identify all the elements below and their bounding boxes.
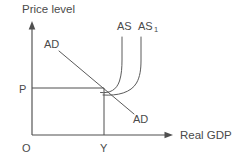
labels-group: Price level Real GDP O P Y AD AD AS AS 1 <box>19 3 232 154</box>
x-axis-arrow-icon <box>165 132 174 139</box>
y-axis-arrow-icon <box>29 21 36 30</box>
x-axis-label: Real GDP <box>180 129 232 141</box>
as1-label: AS 1 <box>138 20 158 34</box>
ad-as-diagram: Price level Real GDP O P Y AD AD AS AS 1 <box>0 0 232 160</box>
ad-as-chart-canvas: Price level Real GDP O P Y AD AD AS AS 1 <box>0 0 232 160</box>
ad-curve <box>59 51 134 114</box>
equilibrium-guides-group <box>32 88 104 135</box>
price-level-label: P <box>19 83 26 95</box>
origin-label: O <box>22 142 31 154</box>
ad-bottom-label: AD <box>133 113 148 125</box>
real-gdp-point-label: Y <box>100 142 108 154</box>
ad-top-label: AD <box>44 38 59 50</box>
as-label: AS <box>117 20 132 32</box>
as-curve <box>101 37 123 93</box>
y-axis-label: Price level <box>22 3 75 15</box>
as1-label-subscript: 1 <box>154 25 158 34</box>
as1-label-base: AS <box>138 20 153 32</box>
